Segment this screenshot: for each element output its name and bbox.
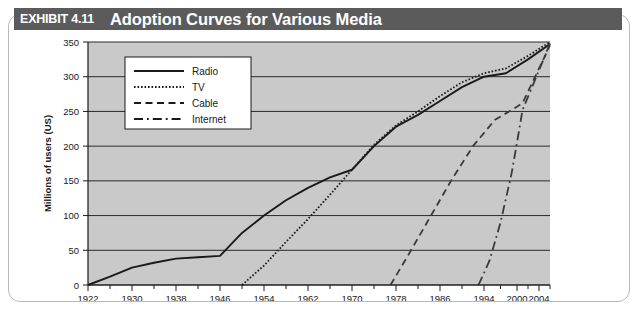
y-tick-label: 250 xyxy=(63,106,79,117)
y-tick-label: 100 xyxy=(63,210,79,221)
y-axis-title-text: Millions of users (US) xyxy=(42,115,53,212)
y-tick-label: 200 xyxy=(63,141,79,152)
x-tick-label: 1938 xyxy=(165,293,186,301)
chart-container: 050100150200250300350 192219301938194619… xyxy=(9,31,629,301)
legend-label-tv: TV xyxy=(192,82,205,93)
x-tick-label: 1922 xyxy=(77,293,98,301)
y-tick-label: 0 xyxy=(74,280,79,291)
x-tick-label: 1954 xyxy=(253,293,274,301)
exhibit-figure: EXHIBIT 4.11 Adoption Curves for Various… xyxy=(0,0,640,316)
x-tick-label: 2004 xyxy=(528,293,549,301)
x-tick-label: 1946 xyxy=(209,293,230,301)
legend-label-internet: Internet xyxy=(192,114,226,125)
y-tick-label: 350 xyxy=(63,37,79,48)
x-tick-label: 1978 xyxy=(385,293,406,301)
x-tick-label: 1986 xyxy=(429,293,450,301)
legend-box xyxy=(125,57,251,129)
exhibit-number-label: EXHIBIT 4.11 xyxy=(14,12,96,26)
y-axis-title: Millions of users (US) xyxy=(42,115,53,212)
x-tick-label: 1970 xyxy=(341,293,362,301)
legend-label-cable: Cable xyxy=(192,98,219,109)
y-tick-label: 50 xyxy=(68,245,79,256)
x-tick-label: 1962 xyxy=(297,293,318,301)
x-tick-label: 1930 xyxy=(121,293,142,301)
x-tick-label: 2000 xyxy=(506,293,527,301)
legend-label-radio: Radio xyxy=(192,66,219,77)
chart-legend: RadioTVCableInternet xyxy=(125,57,251,129)
exhibit-title: Adoption Curves for Various Media xyxy=(110,10,382,29)
x-tick-label: 1994 xyxy=(473,293,494,301)
y-axis-ticks: 050100150200250300350 xyxy=(63,37,88,291)
x-axis-ticks: 1922193019381946195419621970197819861994… xyxy=(77,285,550,301)
exhibit-header-band: EXHIBIT 4.11 Adoption Curves for Various… xyxy=(14,8,622,30)
y-tick-label: 150 xyxy=(63,175,79,186)
line-chart: 050100150200250300350 192219301938194619… xyxy=(9,31,629,301)
y-tick-label: 300 xyxy=(63,71,79,82)
